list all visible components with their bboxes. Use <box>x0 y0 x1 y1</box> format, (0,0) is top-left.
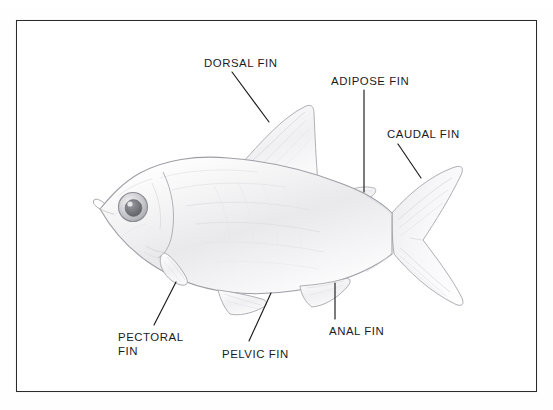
label-caudal-fin: CAUDAL FIN <box>387 128 460 142</box>
diagram-frame <box>16 20 537 392</box>
label-pectoral-line1: PECTORAL <box>118 331 184 343</box>
label-pectoral-fin: PECTORALFIN <box>118 331 184 358</box>
label-pectoral-line2: FIN <box>118 345 138 357</box>
label-pelvic-fin: PELVIC FIN <box>222 348 289 362</box>
page-canvas: DORSAL FIN ADIPOSE FIN CAUDAL FIN PECTOR… <box>0 0 553 410</box>
scan-top-sliver <box>0 0 553 9</box>
label-dorsal-fin: DORSAL FIN <box>204 57 277 71</box>
label-anal-fin: ANAL FIN <box>329 325 384 339</box>
label-adipose-fin: ADIPOSE FIN <box>331 75 409 89</box>
